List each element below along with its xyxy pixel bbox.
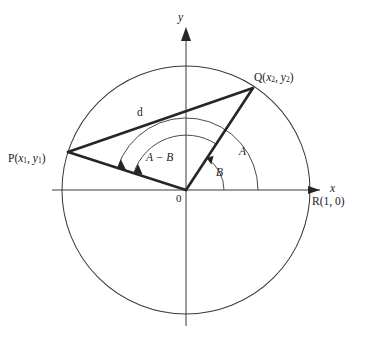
origin-label: 0 — [176, 193, 182, 204]
angle-label-a-minus-b: A − B — [146, 152, 173, 164]
segment-pq-distance — [68, 88, 253, 152]
point-p-name: P — [8, 152, 14, 164]
y-axis-arrowhead — [181, 27, 191, 41]
point-label-p: P(x1, y1) — [8, 153, 46, 165]
y-axis-label: y — [178, 12, 183, 24]
point-q-x-subscript: 2 — [271, 75, 275, 84]
point-q-y-subscript: 2 — [286, 75, 290, 84]
x-axis-label: x — [330, 183, 335, 195]
angle-label-a: A — [239, 146, 246, 158]
x-axis-arrowhead — [308, 186, 320, 194]
point-q-name: Q — [254, 71, 262, 83]
angle-label-b: B — [216, 167, 223, 179]
figure-canvas: y x 0 P(x1, y1) Q(x2, y2) R(1, 0) d A B … — [0, 0, 365, 338]
point-p-x-subscript: 1 — [23, 156, 27, 165]
distance-label-d: d — [137, 107, 143, 119]
point-p-y-subscript: 1 — [38, 156, 42, 165]
point-label-q: Q(x2, y2) — [254, 72, 293, 84]
diagram-svg — [0, 0, 365, 338]
point-label-r: R(1, 0) — [312, 196, 345, 208]
